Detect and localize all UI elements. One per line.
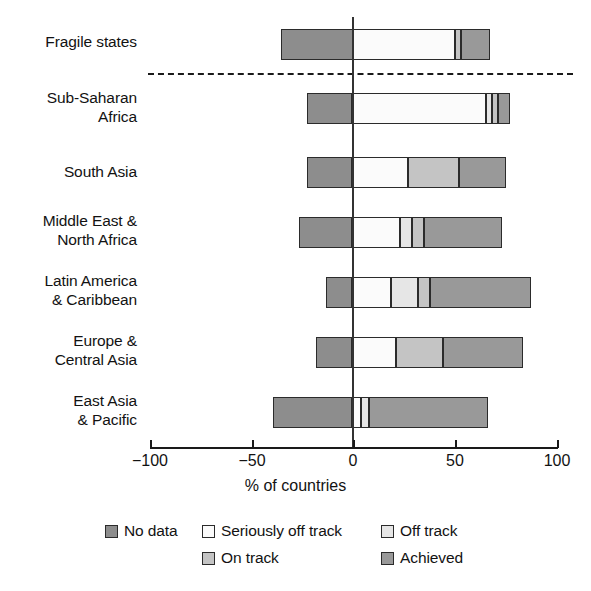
legend-item-seriously-off-track: Seriously off track [202,520,342,542]
bar-segment-achieved [443,337,523,368]
bar-row-fragile-states [0,29,591,60]
x-axis-tick-0 [353,440,355,448]
legend-label-off-track: Off track [400,522,457,540]
bar-row-east-asia-pacific [0,397,591,428]
bar-segment-achieved [461,29,490,60]
legend-label-achieved: Achieved [400,549,463,567]
legend-item-no-data: No data [105,520,178,542]
x-axis-label-0: 0 [323,452,383,470]
legend-swatch-achieved [381,552,394,565]
bar-segment-no-data [307,93,352,124]
bar-segment-achieved [459,157,506,188]
bar-segment-on-track [412,217,424,248]
zero-axis-line [352,17,354,448]
legend-row-2: On track Achieved [0,547,591,569]
legend-swatch-on-track [202,552,215,565]
x-axis-label--50: −50 [222,452,282,470]
bar-segment-achieved [498,93,510,124]
bar-segment-on-track [418,277,430,308]
bar-row-latin-america-caribbean [0,277,591,308]
bar-segment-on-track [408,157,459,188]
bar-segment-no-data [281,29,353,60]
bar-segment-seriously-off-track [353,397,361,428]
bar-segment-achieved [430,277,530,308]
bar-row-middle-east-north-africa [0,217,591,248]
legend-item-achieved: Achieved [381,547,463,569]
bar-segment-achieved [369,397,488,428]
bar-segment-no-data [273,397,353,428]
bar-segment-seriously-off-track [353,277,392,308]
fragile-states-separator [148,73,573,75]
bar-segment-no-data [326,277,353,308]
bar-segment-seriously-off-track [353,217,400,248]
bar-segment-no-data [307,157,352,188]
x-axis-tick--50 [252,440,254,448]
chart-container: Fragile states Sub-Saharan Africa South … [0,0,591,591]
bar-segment-seriously-off-track [353,157,408,188]
chart-legend: No data Seriously off track Off track On… [0,520,591,576]
legend-label-seriously-off-track: Seriously off track [221,522,342,540]
legend-row-1: No data Seriously off track Off track [0,520,591,542]
bar-segment-off-track [391,277,418,308]
bar-segment-seriously-off-track [353,337,396,368]
bar-segment-seriously-off-track [353,29,456,60]
bar-segment-seriously-off-track [353,93,486,124]
bar-row-europe-central-asia [0,337,591,368]
legend-item-off-track: Off track [381,520,457,542]
bar-segment-achieved [424,217,502,248]
bar-segment-off-track [361,397,369,428]
bar-segment-no-data [299,217,352,248]
legend-label-on-track: On track [221,549,279,567]
bar-segment-no-data [316,337,353,368]
x-axis-title: % of countries [0,477,591,495]
x-axis-label--100: −100 [120,452,180,470]
x-axis-label-100: 100 [527,452,587,470]
x-axis-tick-100 [557,440,559,448]
legend-swatch-no-data [105,525,118,538]
bar-segment-on-track [396,337,443,368]
x-axis-tick-50 [455,440,457,448]
x-axis-tick--100 [150,440,152,448]
bar-row-south-asia [0,157,591,188]
legend-swatch-seriously-off-track [202,525,215,538]
legend-swatch-off-track [381,525,394,538]
bar-segment-off-track [400,217,412,248]
x-axis-label-50: 50 [425,452,485,470]
legend-item-on-track: On track [202,547,279,569]
bar-row-sub-saharan-africa [0,93,591,124]
legend-label-no-data: No data [124,522,178,540]
